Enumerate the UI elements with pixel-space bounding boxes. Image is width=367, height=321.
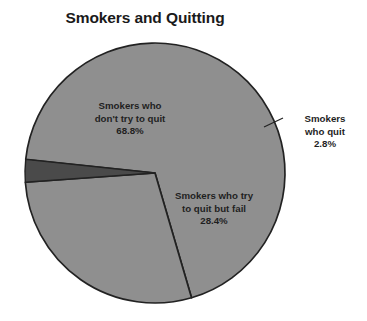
pie-label-line-1: Smokers who — [54, 100, 206, 113]
pie-label-line-2: to quit but fail — [148, 203, 280, 216]
pie-label-line-1: Smokers — [286, 113, 364, 126]
pie-label-dont-try-to-quit: Smokers who don't try to quit 68.8% — [54, 100, 206, 138]
pie-label-percent: 28.4% — [148, 215, 280, 228]
pie-graphic — [0, 0, 367, 321]
pie-label-try-to-quit-but-fail: Smokers who try to quit but fail 28.4% — [148, 190, 280, 228]
pie-chart-figure: Smokers and Quitting Smokers who don't t… — [0, 0, 367, 321]
pie-label-smokers-who-quit: Smokers who quit 2.8% — [286, 113, 364, 151]
pie-label-percent: 2.8% — [286, 138, 364, 151]
pie-label-percent: 68.8% — [54, 125, 206, 138]
pie-label-line-2: don't try to quit — [54, 113, 206, 126]
pie-label-line-2: who quit — [286, 126, 364, 139]
pie-label-line-1: Smokers who try — [148, 190, 280, 203]
